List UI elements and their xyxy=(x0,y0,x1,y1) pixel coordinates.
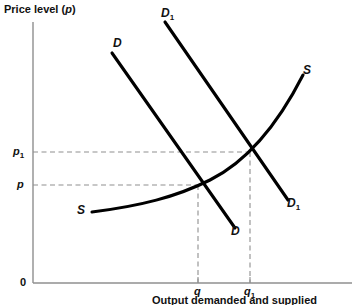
curve-label-d1-top-base: D xyxy=(161,6,170,20)
y-axis-title-text: Price level ( xyxy=(4,3,65,15)
demand-curve xyxy=(112,53,235,228)
x-tick-label-q1: q1 xyxy=(244,285,255,300)
curve-label-d1-bottom-base: D xyxy=(287,196,296,210)
y-axis-title: Price level (p) xyxy=(4,3,76,15)
origin-label: 0 xyxy=(20,276,26,288)
supply-demand-chart: Price level (p) Output demanded and supp… xyxy=(0,0,356,305)
curve-label-d1-top-sub: 1 xyxy=(170,13,174,22)
y-tick-label-p1-sub: 1 xyxy=(20,151,24,160)
curve-label-s-bottom: S xyxy=(77,203,85,217)
x-tick-label-q1-base: q xyxy=(244,285,251,297)
x-tick-label-q1-sub: 1 xyxy=(251,291,255,300)
curve-label-d1-bottom: D1 xyxy=(287,196,300,212)
y-tick-label-p1: p1 xyxy=(13,145,24,160)
y-tick-label-p1-base: p xyxy=(13,145,20,157)
x-axis-title: Output demanded and supplied xyxy=(152,294,317,305)
curve-label-d1-top: D1 xyxy=(161,6,174,22)
demand-curve-shifted xyxy=(165,22,288,200)
curve-label-d-bottom: D xyxy=(231,224,240,238)
curve-label-d1-bottom-sub: 1 xyxy=(296,203,300,212)
y-tick-label-p: p xyxy=(17,178,24,190)
curve-label-s-top: S xyxy=(303,63,311,77)
y-axis-title-suffix: ) xyxy=(72,3,76,15)
curve-label-d-top: D xyxy=(113,36,122,50)
y-axis-title-variable: p xyxy=(65,3,72,15)
x-tick-label-q: q xyxy=(194,285,201,297)
supply-curve xyxy=(92,75,303,212)
chart-plot-area xyxy=(0,0,356,305)
